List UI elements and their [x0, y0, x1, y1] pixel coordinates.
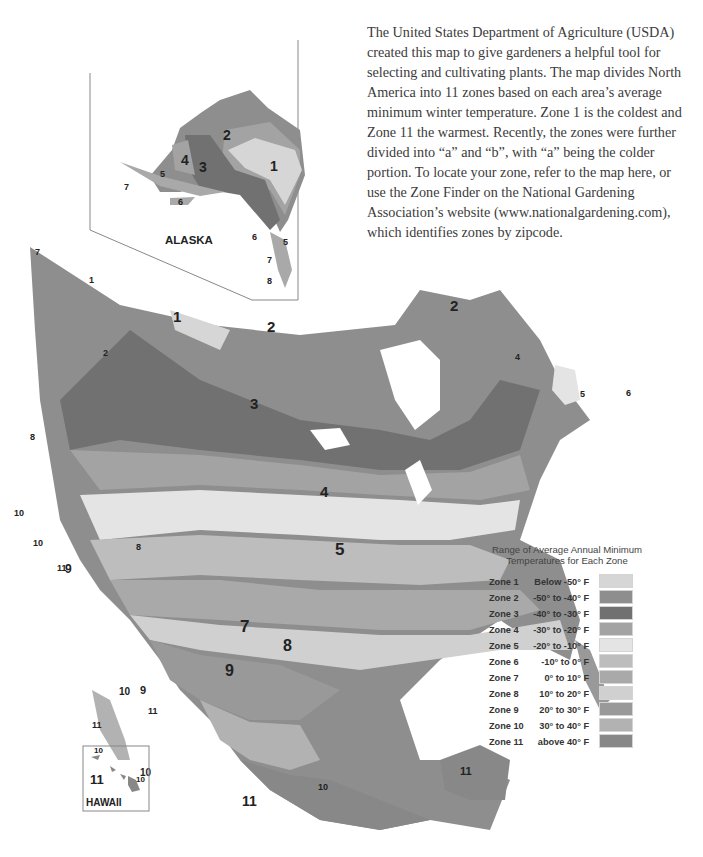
- legend-zone-name: Zone 5: [489, 641, 519, 651]
- svg-text:11: 11: [460, 765, 472, 777]
- zone-legend: Range of Average Annual Minimum Temperat…: [487, 544, 687, 750]
- svg-text:7: 7: [267, 255, 272, 265]
- svg-text:8: 8: [267, 276, 272, 286]
- alaska-inset: 2 1 4 3 5 7 6 6 5 7 8 ALASKA: [90, 40, 305, 300]
- svg-text:11: 11: [148, 706, 158, 716]
- svg-text:11: 11: [242, 793, 257, 809]
- svg-text:5: 5: [160, 169, 165, 179]
- legend-title-line1: Range of Average Annual Minimum: [487, 544, 647, 555]
- svg-text:10: 10: [318, 782, 328, 792]
- legend-color-swatch: [599, 702, 633, 716]
- legend-zone-range: above 40° F: [527, 737, 589, 747]
- legend-color-swatch: [599, 574, 633, 588]
- svg-text:1: 1: [173, 308, 181, 325]
- svg-text:4: 4: [515, 352, 520, 362]
- legend-row: Zone 920° to 30° F: [487, 702, 687, 718]
- svg-text:11: 11: [92, 720, 102, 730]
- svg-text:7: 7: [35, 247, 40, 257]
- legend-zone-name: Zone 11: [489, 737, 523, 747]
- hawaii-label: HAWAII: [86, 797, 122, 808]
- legend-zone-range: -50° to -40° F: [527, 593, 589, 603]
- svg-text:10: 10: [94, 746, 103, 755]
- legend-row: Zone 70° to 10° F: [487, 670, 687, 686]
- svg-text:5: 5: [335, 540, 344, 559]
- svg-text:8: 8: [283, 637, 292, 654]
- svg-text:5: 5: [283, 237, 288, 247]
- legend-color-swatch: [599, 590, 633, 604]
- legend-rows: Zone 1Below -50° FZone 2-50° to -40° FZo…: [487, 574, 687, 750]
- legend-color-swatch: [599, 638, 633, 652]
- svg-text:5: 5: [580, 389, 585, 399]
- legend-color-swatch: [599, 686, 633, 700]
- legend-zone-name: Zone 1: [489, 577, 519, 587]
- legend-row: Zone 4-30° to -20° F: [487, 622, 687, 638]
- legend-color-swatch: [599, 670, 633, 684]
- svg-text:2: 2: [267, 318, 275, 335]
- svg-text:2: 2: [103, 348, 108, 358]
- svg-text:6: 6: [252, 232, 257, 242]
- svg-text:10: 10: [136, 775, 145, 784]
- legend-row: Zone 810° to 20° F: [487, 686, 687, 702]
- legend-zone-name: Zone 3: [489, 609, 519, 619]
- legend-row: Zone 2-50° to -40° F: [487, 590, 687, 606]
- svg-text:8: 8: [30, 432, 35, 442]
- legend-zone-name: Zone 9: [489, 705, 519, 715]
- legend-zone-range: 30° to 40° F: [527, 721, 589, 731]
- legend-row: Zone 6-10° to 0° F: [487, 654, 687, 670]
- legend-color-swatch: [599, 606, 633, 620]
- svg-text:2: 2: [450, 297, 458, 314]
- svg-text:10: 10: [33, 538, 43, 548]
- legend-zone-range: 10° to 20° F: [527, 689, 589, 699]
- svg-text:1: 1: [89, 275, 94, 285]
- legend-zone-range: Below -50° F: [527, 577, 589, 587]
- legend-zone-name: Zone 6: [489, 657, 519, 667]
- alaska-label: ALASKA: [165, 234, 213, 246]
- svg-text:4: 4: [320, 483, 329, 500]
- legend-zone-range: 0° to 10° F: [527, 673, 589, 683]
- legend-row: Zone 3-40° to -30° F: [487, 606, 687, 622]
- svg-text:10: 10: [119, 686, 131, 697]
- legend-zone-name: Zone 8: [489, 689, 519, 699]
- legend-row: Zone 11above 40° F: [487, 734, 687, 750]
- svg-text:3: 3: [250, 395, 258, 412]
- legend-zone-name: Zone 7: [489, 673, 519, 683]
- legend-zone-name: Zone 2: [489, 593, 519, 603]
- svg-text:9: 9: [140, 684, 146, 696]
- svg-text:4: 4: [181, 152, 189, 168]
- svg-text:1: 1: [270, 158, 278, 174]
- legend-color-swatch: [599, 734, 633, 748]
- svg-text:9: 9: [65, 562, 72, 576]
- legend-title-line2: Temperatures for Each Zone: [487, 555, 647, 566]
- legend-row: Zone 5-20° to -10° F: [487, 638, 687, 654]
- svg-text:11: 11: [90, 772, 104, 787]
- legend-zone-range: -10° to 0° F: [527, 657, 589, 667]
- svg-text:6: 6: [626, 388, 631, 398]
- legend-color-swatch: [599, 654, 633, 668]
- legend-color-swatch: [599, 718, 633, 732]
- legend-zone-name: Zone 10: [489, 721, 524, 731]
- legend-zone-range: -20° to -10° F: [527, 641, 589, 651]
- legend-zone-range: -40° to -30° F: [527, 609, 589, 619]
- svg-text:3: 3: [199, 159, 207, 175]
- legend-zone-name: Zone 4: [489, 625, 519, 635]
- legend-row: Zone 1Below -50° F: [487, 574, 687, 590]
- svg-text:2: 2: [223, 127, 231, 143]
- legend-zone-range: 20° to 30° F: [527, 705, 589, 715]
- svg-text:6: 6: [178, 197, 183, 207]
- legend-zone-range: -30° to -20° F: [527, 625, 589, 635]
- svg-text:8: 8: [136, 542, 141, 552]
- svg-text:9: 9: [225, 662, 234, 679]
- svg-text:10: 10: [14, 508, 24, 518]
- legend-title: Range of Average Annual Minimum Temperat…: [487, 544, 647, 566]
- svg-text:7: 7: [240, 617, 249, 636]
- legend-row: Zone 1030° to 40° F: [487, 718, 687, 734]
- svg-text:7: 7: [124, 182, 129, 192]
- legend-color-swatch: [599, 622, 633, 636]
